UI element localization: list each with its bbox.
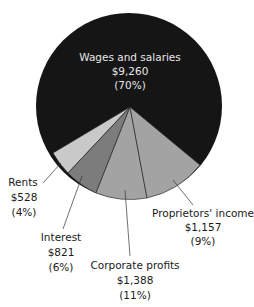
label-proprietors-income-value: $1,157	[185, 221, 222, 233]
label-corporate-profits-value: $1,388	[117, 274, 154, 286]
label-corporate-profits-name: Corporate profits	[90, 259, 179, 271]
label-interest-percent: (6%)	[49, 261, 74, 273]
label-wages-percent: (70%)	[114, 79, 146, 91]
leader-line-corporate-profits	[125, 190, 130, 256]
label-corporate-profits-percent: (11%)	[119, 289, 151, 301]
label-wages-name: Wages and salaries	[79, 51, 181, 63]
leader-line-proprietors-income	[173, 180, 193, 205]
leader-line-rents	[43, 163, 61, 183]
label-rents-name: Rents	[8, 176, 38, 188]
label-rents-value: $528	[11, 191, 38, 203]
leader-line-interest	[63, 176, 82, 229]
label-proprietors-income-percent: (9%)	[191, 235, 216, 247]
label-interest-name: Interest	[41, 231, 81, 243]
label-wages-value: $9,260	[112, 65, 149, 77]
label-interest-value: $821	[48, 246, 75, 258]
pie-chart: Wages and salaries $9,260 (70%) Rents $5…	[0, 0, 254, 307]
label-rents-percent: (4%)	[12, 206, 37, 218]
label-proprietors-income-name: Proprietors' income	[152, 207, 254, 219]
